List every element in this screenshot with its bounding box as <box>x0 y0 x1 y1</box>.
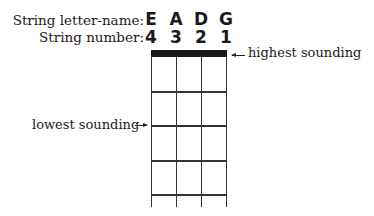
fret-1 <box>151 91 227 93</box>
string-number-4: 4 <box>141 27 161 47</box>
string-line-2 <box>201 57 202 207</box>
lowest-arrow-icon <box>135 125 147 126</box>
fret-2 <box>151 125 227 127</box>
lowest-sounding-label: lowest sounding <box>32 117 139 132</box>
highest-arrow-icon <box>232 55 245 56</box>
string-letter-d: D <box>191 9 211 29</box>
string-number-2: 2 <box>191 27 211 47</box>
string-line-3 <box>176 57 177 207</box>
fret-3 <box>151 160 227 162</box>
string-line-1 <box>226 57 227 207</box>
string-number-label: String number: <box>39 29 144 45</box>
highest-sounding-label: highest sounding <box>248 45 361 60</box>
string-number-3: 3 <box>166 27 186 47</box>
string-line-4 <box>151 57 152 207</box>
string-letter-label: String letter-name: <box>13 12 144 28</box>
fret-4 <box>151 194 227 196</box>
string-letter-e: E <box>141 9 161 29</box>
string-number-1: 1 <box>216 27 236 47</box>
string-letter-a: A <box>166 9 186 29</box>
nut <box>151 50 227 57</box>
string-letter-g: G <box>216 9 236 29</box>
